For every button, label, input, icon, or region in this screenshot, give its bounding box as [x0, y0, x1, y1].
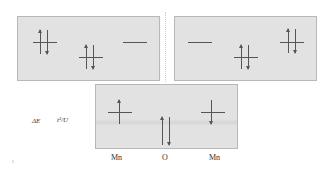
spin-up-arrow	[288, 29, 289, 53]
energy-label: ΔE	[32, 117, 40, 125]
spin-up-arrow	[119, 100, 120, 124]
spin-up-arrow	[40, 30, 41, 54]
site-label-mn-right: Mn	[209, 153, 220, 162]
mn-level-right-empty	[123, 42, 147, 43]
mn-level-right	[201, 112, 225, 113]
panel-top-left	[17, 16, 160, 81]
spin-up-arrow	[86, 45, 87, 69]
spin-down-arrow	[169, 117, 170, 145]
shade-band	[96, 119, 237, 126]
mn-level-right	[280, 42, 304, 43]
mn-level-left	[33, 42, 57, 43]
o-level	[234, 57, 258, 58]
site-label-mn-left: Mn	[111, 153, 122, 162]
panel-top-right	[174, 16, 317, 81]
spin-down-arrow	[93, 45, 94, 69]
spin-up-arrow	[241, 45, 242, 69]
spin-down-arrow	[295, 29, 296, 53]
panel-bottom	[95, 84, 238, 149]
energy-expression: t²/U	[57, 116, 68, 124]
spin-down-arrow	[47, 30, 48, 54]
corner-mark: ı	[12, 158, 14, 164]
spin-down-arrow	[248, 45, 249, 69]
site-label-o: O	[162, 153, 168, 162]
mn-level-left-empty	[188, 42, 212, 43]
o-level	[79, 57, 103, 58]
spin-up-arrow	[162, 117, 163, 145]
spin-down-arrow	[211, 100, 212, 124]
separator	[165, 12, 166, 82]
